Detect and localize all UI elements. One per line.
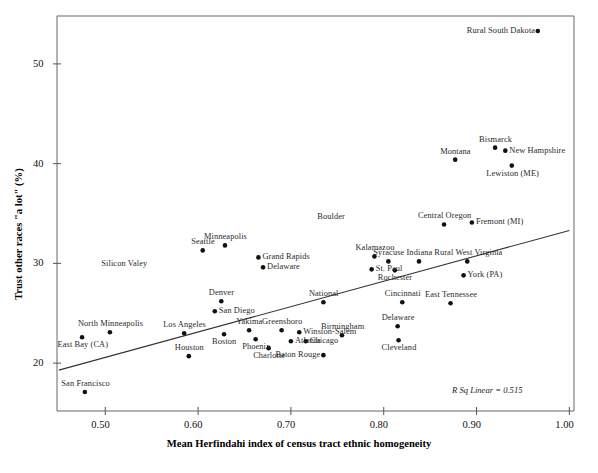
r-squared-annotation: R Sq Linear = 0.515 <box>452 385 523 395</box>
y-tick-label: 50 <box>33 59 44 70</box>
data-point <box>187 354 192 359</box>
data-point <box>253 337 258 342</box>
point-label: Birmingham <box>321 323 364 331</box>
x-axis-title: Mean Herfindahi index of census tract et… <box>0 439 598 450</box>
point-label: Cincinnati <box>385 290 421 298</box>
data-point <box>297 330 302 335</box>
data-point <box>417 259 422 264</box>
point-label: San Diego <box>219 307 255 315</box>
data-point <box>510 163 515 168</box>
data-point <box>400 300 405 305</box>
point-label: North Minneapolis <box>78 320 143 328</box>
point-label: Indiana <box>406 249 432 257</box>
data-point <box>321 300 326 305</box>
point-label: Rochester <box>378 274 412 282</box>
data-point <box>182 331 187 336</box>
point-label: East Bay (CA) <box>58 341 109 349</box>
data-point <box>321 353 326 358</box>
data-point <box>396 338 401 343</box>
point-label: Lewiston (ME) <box>486 170 539 178</box>
point-label: Fremont (MI) <box>476 218 524 226</box>
point-label: Grand Rapids <box>262 253 310 261</box>
point-label: Yakima <box>236 318 262 326</box>
data-point <box>289 339 294 344</box>
data-point <box>222 332 227 337</box>
data-point <box>83 390 88 395</box>
data-point <box>223 243 228 248</box>
data-point <box>200 248 205 253</box>
point-label: Rural West Virginia <box>434 249 502 257</box>
point-label: Baton Rouge <box>275 351 320 359</box>
data-point <box>461 273 466 278</box>
x-tick-label: 0.60 <box>184 420 202 431</box>
x-tick-label: 0.80 <box>370 420 388 431</box>
data-point <box>256 255 261 260</box>
data-point <box>395 324 400 329</box>
point-label: Greensboro <box>262 318 302 326</box>
scatter-chart: San FranciscoEast Bay (CA)North Minneapo… <box>0 0 598 473</box>
point-label: York (PA) <box>468 271 503 279</box>
point-label: New Hampshire <box>509 147 565 155</box>
x-tick-label: 1.00 <box>555 420 573 431</box>
point-label: East Tennessee <box>425 291 477 299</box>
point-label: Cleveland <box>382 344 417 352</box>
data-point <box>108 330 113 335</box>
point-label: Chicago <box>310 337 339 345</box>
point-label: Silicon Valey <box>101 260 147 268</box>
point-label: Central Oregon <box>418 212 471 220</box>
data-point <box>465 259 470 264</box>
data-point <box>386 259 391 264</box>
plot-canvas <box>0 0 598 473</box>
point-label: San Francisco <box>61 380 110 388</box>
data-point <box>219 299 224 304</box>
point-label: Denver <box>209 289 234 297</box>
data-point <box>453 157 458 162</box>
data-point <box>442 222 447 227</box>
y-tick-label: 40 <box>33 159 44 170</box>
data-point <box>503 148 508 153</box>
data-point <box>212 309 217 314</box>
point-label: Minneapolis <box>204 233 247 241</box>
point-label: Montana <box>440 148 470 156</box>
data-point <box>536 29 541 34</box>
point-label: Syracuse <box>373 249 404 257</box>
data-point <box>261 265 266 270</box>
point-label: Houston <box>175 344 204 352</box>
point-label: Delaware <box>267 263 300 271</box>
y-axis-title: Trust other races "a lot" (%) <box>14 168 25 300</box>
data-point <box>279 328 284 333</box>
point-label: National <box>309 290 339 298</box>
x-tick-label: 0.70 <box>277 420 295 431</box>
point-label: Delaware <box>382 314 415 322</box>
point-label: Boston <box>212 338 236 346</box>
y-tick-label: 20 <box>33 358 44 369</box>
data-point <box>80 335 85 340</box>
y-tick-label: 30 <box>33 258 44 269</box>
point-label: Rural South Dakota <box>467 27 535 35</box>
x-tick-label: 0.50 <box>91 420 109 431</box>
data-point <box>247 328 252 333</box>
point-label: Los Angeles <box>163 321 206 329</box>
data-point <box>448 301 453 306</box>
data-point <box>493 145 498 150</box>
point-label: Boulder <box>317 213 345 221</box>
point-label: Bismarck <box>479 136 512 144</box>
x-tick-label: 0.90 <box>463 420 481 431</box>
data-point <box>369 267 374 272</box>
